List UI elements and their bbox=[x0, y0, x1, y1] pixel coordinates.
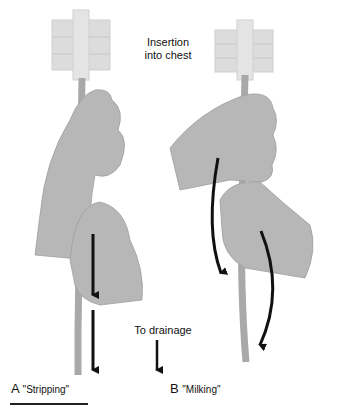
insertion-label: Insertion into chest bbox=[133, 36, 203, 62]
dressing-b bbox=[215, 20, 273, 80]
panel-b-letter: B bbox=[170, 381, 179, 396]
panel-a-caption: "Stripping" bbox=[23, 384, 70, 395]
hand-a-lower bbox=[70, 202, 143, 305]
caption-rule bbox=[10, 403, 88, 405]
insertion-label-line1: Insertion bbox=[133, 36, 203, 49]
drainage-label: To drainage bbox=[128, 324, 198, 337]
dressing-a bbox=[52, 10, 110, 80]
hand-b-upper bbox=[170, 94, 277, 190]
insertion-label-line2: into chest bbox=[133, 49, 203, 62]
panel-a-label: A "Stripping" bbox=[11, 381, 69, 396]
panel-b-caption: "Milking" bbox=[182, 384, 220, 395]
hand-b-lower bbox=[220, 182, 313, 278]
panel-a-letter: A bbox=[11, 381, 19, 396]
panel-b-label: B "Milking" bbox=[170, 381, 221, 396]
